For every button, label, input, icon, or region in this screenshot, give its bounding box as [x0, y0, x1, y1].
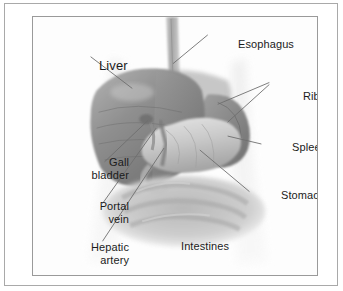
label-gall-bladder: Gall bladder: [67, 156, 129, 181]
label-stomach: Stomach: [281, 189, 318, 202]
label-esophagus: Esophagus: [238, 38, 294, 51]
label-liver: Liver: [99, 58, 128, 73]
label-spleen: Spleen: [292, 141, 318, 154]
label-hepatic-artery: Hepatic artery: [71, 241, 129, 266]
label-ribs: Ribs: [303, 90, 318, 103]
figure-outer-frame: Esophagus Liver Ribs Spleen Stomach Gall…: [4, 3, 338, 286]
illustration-panel: Esophagus Liver Ribs Spleen Stomach Gall…: [32, 16, 318, 276]
anatomy-illustration: [33, 17, 317, 275]
label-intestines: Intestines: [181, 240, 229, 253]
label-portal-vein: Portal vein: [71, 200, 129, 225]
